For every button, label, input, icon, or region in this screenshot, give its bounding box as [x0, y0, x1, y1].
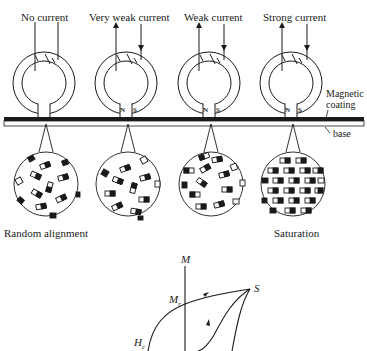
head-label-strong-current: Strong current — [263, 12, 326, 23]
pole-n-2: N — [120, 107, 125, 114]
domains-random — [14, 152, 80, 218]
head-label-very-weak-current: Very weak current — [89, 12, 170, 23]
magnifier-cones — [39, 124, 300, 152]
coercivity-label: Hc — [134, 337, 145, 351]
pole-s-4: S — [298, 107, 302, 114]
head-weak-current — [178, 24, 240, 117]
domains-weak — [179, 152, 245, 216]
saturation-point-label: S — [254, 283, 260, 294]
hysteresis-plot — [148, 266, 250, 351]
remanence-label: Mr — [169, 294, 181, 308]
upper-branch — [148, 289, 250, 351]
pole-s-2: S — [133, 107, 137, 114]
caption-random-alignment: Random alignment — [4, 228, 88, 239]
head-label-no-current: No current — [21, 12, 68, 23]
head-no-current — [13, 22, 75, 117]
magnetic-coating — [4, 117, 364, 121]
head-label-weak-current: Weak current — [184, 12, 243, 23]
initial-curve — [198, 289, 250, 351]
pole-n-4: N — [285, 107, 290, 114]
axis-label-m: M — [181, 254, 190, 265]
domains-saturation — [261, 152, 325, 216]
diagram-canvas — [0, 0, 367, 351]
pole-s-3: S — [216, 107, 220, 114]
lower-branch — [232, 289, 250, 351]
coating-label-1: Magnetic — [326, 89, 364, 99]
caption-saturation: Saturation — [274, 228, 319, 239]
base-label: base — [333, 129, 351, 139]
coating-label-2: coating — [326, 100, 355, 110]
head-very-weak-current — [95, 24, 157, 117]
domains-very-weak — [96, 152, 160, 220]
tape-base — [4, 121, 364, 126]
head-strong-current — [260, 24, 322, 117]
pole-n-3: N — [203, 107, 208, 114]
